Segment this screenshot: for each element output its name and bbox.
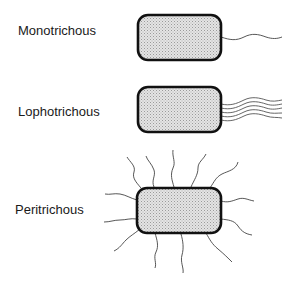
monotrichous-bacterium xyxy=(138,15,282,60)
flagella-tuft xyxy=(221,98,282,121)
cell-body xyxy=(138,15,221,60)
cell-body xyxy=(138,87,221,132)
lophotrichous-bacterium xyxy=(138,87,282,132)
flagellum xyxy=(221,34,282,39)
peritrichous-bacterium xyxy=(104,150,254,273)
cell-body xyxy=(137,188,221,233)
diagram-canvas xyxy=(0,0,299,286)
